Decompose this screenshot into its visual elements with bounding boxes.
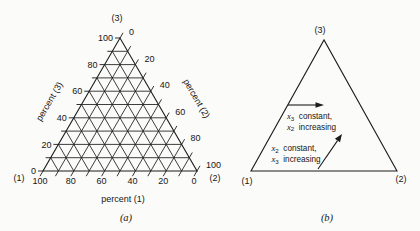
- tick-bottom: [117, 171, 120, 176]
- gridline-constant-x1: [82, 105, 121, 172]
- tick-bottom: [55, 171, 58, 176]
- tick-bottom: [179, 171, 182, 176]
- tick-label: 80: [191, 133, 201, 143]
- corner-label-bottom-left-b: (1): [242, 176, 253, 186]
- tick-bottom: [148, 171, 151, 176]
- corner-label-bottom-right-b: (2): [396, 174, 407, 184]
- gridline-constant-x1: [51, 158, 59, 171]
- gridline-constant-x2: [182, 158, 190, 171]
- tick-label: 100: [206, 160, 221, 170]
- annotation-2-line-2: x3increasing: [271, 154, 322, 165]
- tick-right: [143, 73, 146, 78]
- gridline-constant-x2: [89, 78, 143, 171]
- tick-label: 60: [97, 176, 107, 186]
- tick-right: [135, 59, 138, 64]
- arrow-x2-increasing-head: [316, 102, 325, 108]
- tick-label: 60: [72, 86, 82, 96]
- tick-label: 20: [41, 140, 51, 150]
- tick-label: 40: [127, 176, 137, 186]
- tick-right: [197, 166, 200, 171]
- tick-label: 100: [32, 176, 47, 186]
- arrow-x3-increasing-head: [335, 134, 342, 142]
- tick-label: 100: [98, 33, 113, 43]
- annotation-1-line-1: x3constant,: [286, 111, 332, 122]
- tick-label: 40: [57, 113, 67, 123]
- tick-right: [182, 139, 185, 144]
- corner-label-top-b: (3): [315, 25, 326, 35]
- arrow-x3-increasing-shaft: [318, 141, 338, 169]
- tick-right: [151, 86, 154, 91]
- tick-label: 80: [88, 60, 98, 70]
- tick-label: 20: [158, 176, 168, 186]
- tick-right: [189, 153, 192, 158]
- tick-right: [166, 113, 169, 118]
- tick-label: 20: [144, 54, 154, 64]
- tick-right: [174, 126, 177, 131]
- ternary-grid: [51, 51, 190, 171]
- tick-right: [128, 46, 131, 51]
- corner-label-bottom-left-a: (1): [14, 173, 25, 183]
- caption-b: (b): [321, 212, 334, 224]
- ternary-diagrams-figure: 100806040200020406080100100806040200 x3c…: [0, 0, 420, 231]
- tick-label: 80: [66, 176, 76, 186]
- gridline-constant-x1: [97, 78, 151, 171]
- tick-label: 0: [191, 176, 196, 186]
- axis-label-bottom: percent (1): [101, 194, 145, 204]
- corner-label-top-a: (3): [112, 13, 123, 23]
- corner-label-bottom-right-a: (2): [210, 173, 221, 183]
- tick-right: [159, 99, 162, 104]
- tick-label: 0: [31, 166, 36, 176]
- tick-bottom: [86, 171, 89, 176]
- tick-right: [120, 33, 123, 38]
- annotation-1-line-2: x2increasing: [286, 122, 337, 133]
- caption-a: (a): [120, 212, 133, 224]
- annotation-2-line-1: x2constant,: [271, 143, 317, 154]
- axis-label-right: percent (2): [181, 77, 211, 120]
- tick-label: 60: [175, 107, 185, 117]
- tick-label: 40: [160, 80, 170, 90]
- gridline-constant-x2: [120, 105, 159, 172]
- gridline-constant-x1: [112, 51, 181, 171]
- axis-tick-labels: 100806040200020406080100100806040200: [31, 27, 221, 186]
- tick-label: 0: [129, 27, 134, 37]
